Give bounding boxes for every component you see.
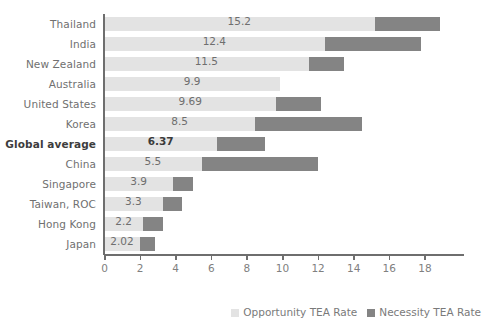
bar-segment-necessity [143,217,163,231]
x-axis-tick [353,255,355,260]
x-axis-tick-label: 2 [125,262,155,274]
x-axis-tick-label: 18 [410,262,440,274]
category-label: China [0,154,96,174]
bar-value-label: 12.4 [104,34,325,48]
x-axis-tick [389,255,391,260]
bar-segment-necessity [325,37,421,51]
x-axis-tick [318,255,320,260]
bar-segment-necessity [173,177,193,191]
bar-segment-necessity [163,197,183,211]
stacked-bar-chart: Thailand15.2India12.4New Zealand11.5Aust… [0,0,489,333]
legend-item[interactable]: Opportunity TEA Rate [231,306,357,318]
bar-segment-necessity [276,97,321,111]
bar-value-label: 5.5 [104,154,202,168]
chart-row: Hong Kong2.2 [0,214,489,234]
category-label: Thailand [0,14,96,34]
bar-segment-necessity [255,117,362,131]
x-axis-tick-label: 14 [339,262,369,274]
category-label: United States [0,94,96,114]
category-label: Korea [0,114,96,134]
plot-area: Thailand15.2India12.4New Zealand11.5Aust… [0,14,489,254]
chart-row: Thailand15.2 [0,14,489,34]
category-label: Global average [0,134,96,154]
bar-value-label: 8.5 [104,114,255,128]
x-axis-tick-label: 10 [268,262,298,274]
legend-label: Necessity TEA Rate [379,306,481,318]
x-axis-tick [175,255,177,260]
x-axis-tick [104,255,106,260]
bar-value-label: 9.9 [104,74,280,88]
chart-row: Japan2.02 [0,234,489,254]
x-axis-tick [211,255,213,260]
chart-row: Singapore3.9 [0,174,489,194]
x-axis-tick [424,255,426,260]
x-axis-tick [140,255,142,260]
chart-legend: Opportunity TEA RateNecessity TEA Rate [0,306,481,318]
bar-value-label: 15.2 [104,14,375,28]
chart-row: China5.5 [0,154,489,174]
x-axis-tick-label: 6 [196,262,226,274]
legend-label: Opportunity TEA Rate [243,306,357,318]
category-label: New Zealand [0,54,96,74]
category-label: Japan [0,234,96,254]
x-axis-tick-label: 8 [232,262,262,274]
chart-row: Taiwan, ROC3.3 [0,194,489,214]
category-label: Australia [0,74,96,94]
legend-swatch-icon [367,309,375,317]
chart-row: New Zealand11.5 [0,54,489,74]
chart-row: Global average6.37 [0,134,489,154]
bar-segment-necessity [375,17,441,31]
x-axis-line [104,254,464,256]
chart-row: India12.4 [0,34,489,54]
category-label: Hong Kong [0,214,96,234]
bar-segment-necessity [202,157,318,171]
bar-segment-necessity [309,57,345,71]
chart-row: Korea8.5 [0,114,489,134]
x-axis-tick [282,255,284,260]
x-axis-tick [246,255,248,260]
bar-value-label: 11.5 [104,54,309,68]
bar-segment-necessity [217,137,265,151]
x-axis-tick-label: 16 [374,262,404,274]
bar-value-label: 3.3 [104,194,163,208]
y-axis-line [103,14,105,255]
chart-row: Australia9.9 [0,74,489,94]
chart-row: United States9.69 [0,94,489,114]
bar-value-label: 3.9 [104,174,173,188]
bar-value-label: 2.2 [104,214,143,228]
x-axis-tick-label: 4 [161,262,191,274]
legend-swatch-icon [231,309,239,317]
bar-value-label: 6.37 [104,134,217,148]
category-label: India [0,34,96,54]
x-axis-tick-label: 12 [303,262,333,274]
x-axis-tick-label: 0 [90,262,120,274]
bar-value-label: 9.69 [104,94,276,108]
legend-item[interactable]: Necessity TEA Rate [367,306,481,318]
bar-value-label: 2.02 [104,234,140,248]
category-label: Singapore [0,174,96,194]
category-label: Taiwan, ROC [0,194,96,214]
bar-segment-necessity [140,237,155,251]
